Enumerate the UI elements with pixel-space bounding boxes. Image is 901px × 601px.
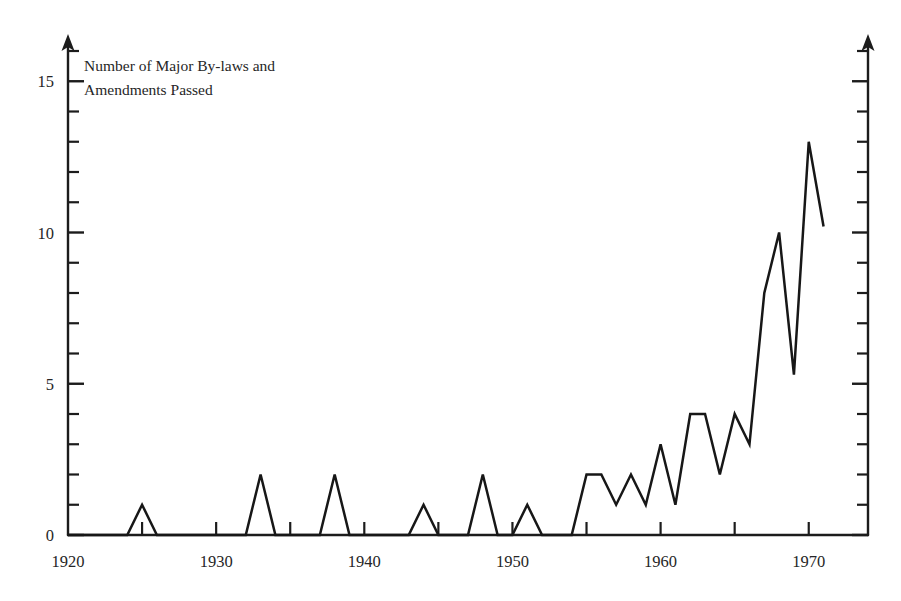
chart-annotation: Number of Major By-laws and Amendments P… (84, 57, 275, 98)
x-tick-label-1970: 1970 (792, 552, 825, 571)
y-axis-tick-labels: 051015 (38, 72, 55, 545)
x-tick-label-1940: 1940 (348, 552, 381, 571)
x-tick-label-1930: 1930 (200, 552, 233, 571)
data-series-line (68, 142, 824, 535)
y-axis-ticks-right (852, 51, 868, 535)
bylaws-line-chart: 051015 192019301940195019601970 Number o… (0, 0, 901, 601)
annotation-line-2: Amendments Passed (84, 81, 213, 98)
annotation-line-1: Number of Major By-laws and (84, 57, 275, 74)
x-tick-label-1950: 1950 (496, 552, 529, 571)
y-tick-label-15: 15 (38, 72, 55, 91)
y-axis (62, 34, 75, 535)
y-tick-label-5: 5 (46, 375, 54, 394)
x-axis-ticks (142, 522, 809, 535)
x-axis-tick-labels: 192019301940195019601970 (52, 552, 826, 571)
y-axis-ticks (68, 51, 84, 535)
x-tick-label-1960: 1960 (644, 552, 677, 571)
x-axis (68, 34, 875, 535)
y-tick-label-0: 0 (46, 526, 54, 545)
x-tick-label-1920: 1920 (52, 552, 85, 571)
y-tick-label-10: 10 (38, 224, 55, 243)
